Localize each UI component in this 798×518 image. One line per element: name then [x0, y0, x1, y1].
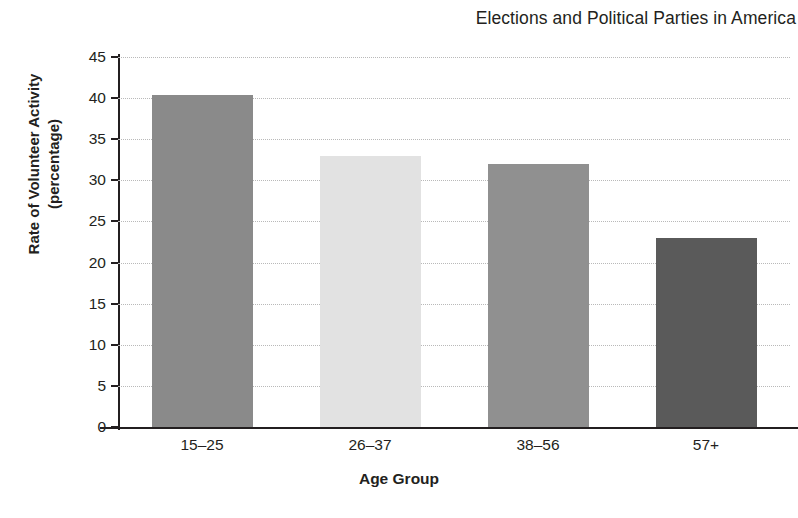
y-axis-tick-label: 35 — [46, 130, 118, 148]
bar — [656, 238, 757, 427]
y-axis-tick-label: 45 — [46, 48, 118, 66]
chart-title: Elections and Political Parties in Ameri… — [476, 8, 796, 29]
x-axis-tick-label: 26–37 — [348, 436, 391, 454]
x-axis-tick-label: 15–25 — [180, 436, 223, 454]
x-axis-line — [100, 427, 798, 429]
gridline — [118, 57, 790, 58]
y-axis-tick-label: 15 — [46, 295, 118, 313]
bar — [152, 95, 253, 427]
y-axis-tick-label: 5 — [46, 377, 118, 395]
x-axis-title: Age Group — [0, 470, 798, 488]
x-axis-tick-label: 57+ — [693, 436, 719, 454]
plot-area — [118, 57, 790, 427]
bar — [320, 156, 421, 427]
y-axis-tick-label: 25 — [46, 212, 118, 230]
bar-chart-figure: Elections and Political Parties in Ameri… — [0, 0, 798, 518]
y-axis-tick-label: 0 — [46, 418, 118, 436]
y-axis-tick-label: 20 — [46, 254, 118, 272]
x-axis-tick-label: 38–56 — [516, 436, 559, 454]
bar — [488, 164, 589, 427]
y-axis-tick-label: 10 — [46, 336, 118, 354]
y-axis-tick-label: 40 — [46, 89, 118, 107]
y-axis-tick-label: 30 — [46, 171, 118, 189]
y-axis-title-line1: Rate of Volunteer Activity — [24, 34, 44, 294]
